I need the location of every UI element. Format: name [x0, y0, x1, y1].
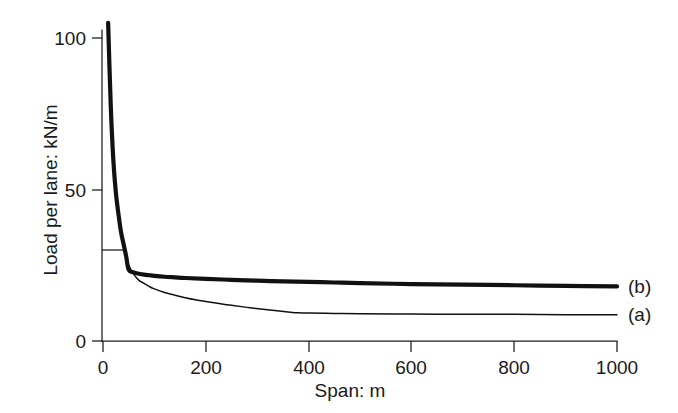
y-axis-title: Load per lane: kN/m — [40, 104, 61, 275]
chart-figure: 100 50 0 0 200 400 600 800 1000 Load per… — [0, 0, 678, 413]
series-label-b: (b) — [628, 276, 651, 297]
chart-canvas: 100 50 0 0 200 400 600 800 1000 Load per… — [0, 0, 678, 413]
x-tick-label-1000: 1000 — [596, 357, 638, 378]
x-tick-label-800: 800 — [498, 357, 530, 378]
x-tick-label-0: 0 — [98, 357, 109, 378]
series-label-a: (a) — [628, 304, 651, 325]
y-tick-label-50: 50 — [65, 180, 86, 201]
y-tick-label-100: 100 — [54, 28, 86, 49]
x-tick-label-200: 200 — [190, 357, 222, 378]
y-tick-label-0: 0 — [75, 331, 86, 352]
x-tick-label-600: 600 — [395, 357, 427, 378]
x-axis-title: Span: m — [315, 380, 386, 401]
x-tick-label-400: 400 — [293, 357, 325, 378]
